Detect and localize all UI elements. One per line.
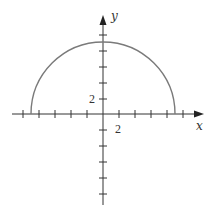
y-tick-label-2: 2 [89,92,95,106]
x-axis-arrow-icon [194,111,204,118]
y-axis-label: y [110,9,118,23]
x-axis-label: x [196,119,203,133]
x-tick-label-2: 2 [115,122,121,136]
y-axis-arrow-icon [100,15,107,25]
semicircle-graph: y x 2 2 [0,0,212,205]
